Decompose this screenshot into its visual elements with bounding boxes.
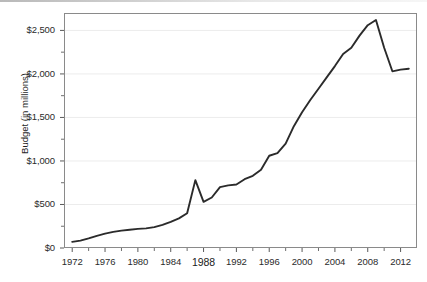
plot-frame bbox=[65, 14, 417, 248]
budget-line-chart: Budget (in millions) $0$500$1,000$1,500$… bbox=[0, 0, 427, 282]
y-axis-tick-label: $500 bbox=[3, 198, 55, 209]
x-axis-tick-label: 2012 bbox=[381, 256, 421, 267]
plot-area bbox=[0, 0, 427, 282]
y-axis-tick-label: $1,000 bbox=[3, 155, 55, 166]
y-axis-tick-label: $2,000 bbox=[3, 68, 55, 79]
y-axis-tick-label: $2,500 bbox=[3, 24, 55, 35]
y-axis-tick-label: $1,500 bbox=[3, 111, 55, 122]
y-axis-tick-label: $0 bbox=[3, 242, 55, 253]
data-series-line-budget bbox=[72, 20, 409, 242]
